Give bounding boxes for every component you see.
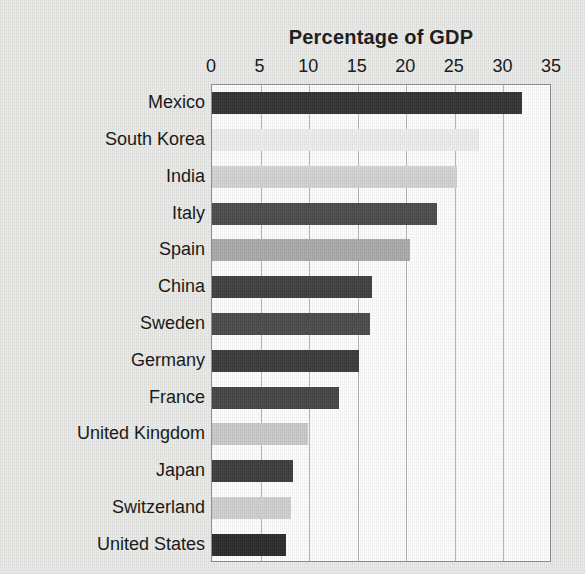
bar-sweden — [212, 313, 370, 335]
bar-mexico — [212, 92, 522, 114]
x-axis-tick-labels: 05101520253035 — [211, 56, 551, 78]
y-tick-label-china: China — [158, 276, 205, 297]
plot-area — [211, 84, 551, 562]
y-tick-label-italy: Italy — [172, 202, 205, 223]
bar-japan — [212, 460, 293, 482]
y-tick-label-spain: Spain — [159, 239, 205, 260]
x-tick-label-15: 15 — [347, 56, 367, 77]
y-tick-label-japan: Japan — [156, 460, 205, 481]
y-tick-label-germany: Germany — [131, 349, 205, 370]
x-tick-label-5: 5 — [255, 56, 265, 77]
bar-germany — [212, 350, 359, 372]
bar-spain — [212, 239, 410, 261]
bar-united-kingdom — [212, 423, 308, 445]
y-tick-label-switzerland: Switzerland — [112, 496, 205, 517]
x-tick-label-30: 30 — [492, 56, 512, 77]
y-axis-category-labels: MexicoSouth KoreaIndiaItalySpainChinaSwe… — [0, 84, 205, 562]
bar-chart-figure: Percentage of GDP 05101520253035 MexicoS… — [0, 0, 585, 574]
y-tick-label-united-kingdom: United Kingdom — [77, 423, 205, 444]
x-tick-label-10: 10 — [298, 56, 318, 77]
chart-title: Percentage of GDP — [211, 26, 551, 49]
bar-united-states — [212, 534, 286, 556]
y-tick-label-sweden: Sweden — [140, 313, 205, 334]
bar-south-korea — [212, 129, 479, 151]
x-tick-label-20: 20 — [395, 56, 415, 77]
y-tick-label-south-korea: South Korea — [105, 129, 205, 150]
x-tick-label-35: 35 — [541, 56, 561, 77]
bars-group — [212, 85, 550, 561]
bar-india — [212, 166, 457, 188]
y-tick-label-mexico: Mexico — [148, 92, 205, 113]
bar-switzerland — [212, 497, 291, 519]
y-tick-label-india: India — [166, 165, 205, 186]
x-tick-label-0: 0 — [206, 56, 216, 77]
x-tick-label-25: 25 — [444, 56, 464, 77]
bar-china — [212, 276, 372, 298]
y-tick-label-united-states: United States — [97, 533, 205, 554]
bar-italy — [212, 203, 437, 225]
y-tick-label-france: France — [149, 386, 205, 407]
bar-france — [212, 387, 339, 409]
